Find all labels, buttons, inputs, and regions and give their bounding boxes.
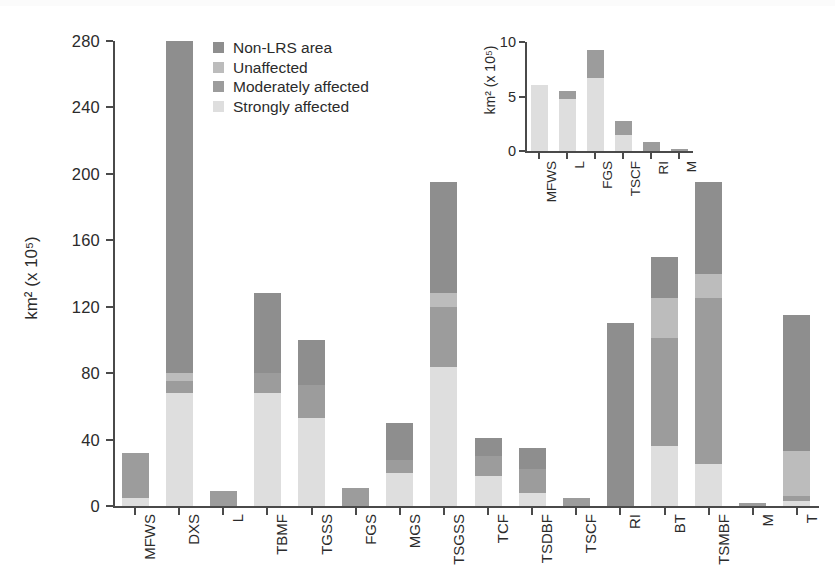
inset-x-axis-tick-label: FGS — [600, 161, 615, 189]
inset-bar-segment — [587, 50, 604, 78]
inset-bar[interactable] — [559, 91, 576, 151]
x-axis-tick-label: TGSS — [318, 514, 335, 555]
inset-bar-series-group — [525, 42, 693, 151]
bar-segment — [254, 373, 281, 393]
bar-segment — [166, 393, 193, 506]
inset-x-axis-tick-label: L — [572, 161, 587, 169]
inset-x-axis-line — [525, 151, 693, 153]
bar-segment — [563, 498, 590, 506]
bar-segment — [519, 493, 546, 506]
bar-segment — [166, 381, 193, 393]
bar[interactable] — [254, 293, 281, 506]
bar-segment — [651, 338, 678, 446]
x-axis-tick-label: DXS — [185, 514, 202, 545]
legend-item-label: Moderately affected — [233, 79, 369, 95]
bar[interactable] — [210, 491, 237, 506]
bar-segment — [430, 293, 457, 306]
x-axis-tick-label: T — [803, 514, 820, 523]
bar[interactable] — [475, 438, 502, 506]
bar-segment — [386, 473, 413, 506]
inset-x-axis-tick-label: RI — [656, 161, 671, 175]
bar[interactable] — [651, 257, 678, 506]
bar-segment — [651, 446, 678, 506]
bar-segment — [298, 385, 325, 418]
inset-bar-segment — [559, 99, 576, 151]
x-axis-tick-label: RI — [626, 514, 643, 529]
inset-bar-segment — [615, 121, 632, 135]
bar-segment — [166, 373, 193, 381]
bar-segment — [430, 307, 457, 367]
bar-segment — [783, 496, 810, 501]
inset-bar[interactable] — [531, 85, 548, 151]
bar-segment — [122, 498, 149, 506]
bar-segment — [783, 451, 810, 496]
y-axis-tick-mark — [106, 173, 113, 175]
inset-bar-segment — [531, 85, 548, 151]
inset-y-axis-tick-label: 0 — [476, 143, 516, 159]
bar[interactable] — [298, 340, 325, 506]
bar-segment — [122, 453, 149, 498]
y-axis-tick-label: 160 — [72, 231, 100, 250]
legend-item: Non-LRS area — [213, 38, 413, 58]
bar-segment — [475, 438, 502, 456]
bar-segment — [695, 464, 722, 506]
bar-segment — [430, 367, 457, 507]
y-axis-tick-mark — [106, 505, 113, 507]
y-axis-tick-label: 80 — [81, 364, 100, 383]
bar[interactable] — [607, 323, 634, 506]
legend-swatch-icon — [213, 62, 224, 73]
bar-segment — [342, 488, 369, 506]
legend-item-label: Unaffected — [233, 60, 308, 76]
inset-bar[interactable] — [587, 50, 604, 151]
inset-bar-segment — [643, 142, 660, 151]
inset-bar[interactable] — [615, 120, 632, 151]
bar[interactable] — [695, 182, 722, 506]
bar[interactable] — [519, 448, 546, 506]
bar[interactable] — [386, 423, 413, 506]
legend-swatch-icon — [213, 81, 224, 92]
y-axis-tick-label: 0 — [91, 497, 100, 516]
y-axis-title: km² (x 10⁵) — [22, 208, 42, 348]
inset-y-axis-title-exponent: (x 10⁵) — [482, 46, 498, 88]
x-axis-tick-label: MFWS — [141, 514, 158, 560]
bar-segment — [430, 182, 457, 293]
bar-segment — [166, 41, 193, 373]
legend: Non-LRS areaUnaffectedModerately affecte… — [213, 38, 413, 116]
bar[interactable] — [430, 182, 457, 506]
inset-bar[interactable] — [643, 142, 660, 151]
bar[interactable] — [739, 503, 766, 506]
y-axis-tick-label: 280 — [72, 32, 100, 51]
bar[interactable] — [342, 488, 369, 506]
y-axis-title-main: km² — [22, 291, 41, 319]
bar-segment — [695, 274, 722, 299]
bar-segment — [651, 298, 678, 338]
bar-segment — [739, 503, 766, 506]
bar-segment — [210, 491, 237, 506]
bar[interactable] — [783, 315, 810, 506]
inset-y-axis-title: km² (x 10⁵) — [482, 32, 498, 128]
y-axis-tick-mark — [106, 40, 113, 42]
legend-item-label: Strongly affected — [233, 99, 349, 115]
bar-segment — [386, 460, 413, 473]
legend-swatch-icon — [213, 101, 224, 112]
bar-segment — [519, 469, 546, 492]
y-axis-tick-mark — [106, 439, 113, 441]
legend-swatch-icon — [213, 42, 224, 53]
y-axis-tick-label: 120 — [72, 297, 100, 316]
x-axis-tick-label: M — [759, 514, 776, 527]
bar[interactable] — [122, 453, 149, 506]
legend-item: Unaffected — [213, 58, 413, 78]
y-axis-title-exponent: (x 10⁵) — [22, 236, 41, 287]
y-axis-tick-label: 40 — [81, 430, 100, 449]
bar-segment — [254, 293, 281, 373]
bar-segment — [519, 448, 546, 470]
bar-segment — [651, 257, 678, 299]
bar[interactable] — [166, 41, 193, 506]
y-axis-tick-label: 200 — [72, 164, 100, 183]
bar-segment — [695, 298, 722, 464]
bar-segment — [475, 456, 502, 476]
bar[interactable] — [563, 498, 590, 506]
inset-x-axis-tick-label: TSCF — [628, 161, 643, 196]
x-axis-tick-label: MGS — [406, 514, 423, 548]
inset-bar[interactable] — [671, 149, 688, 151]
